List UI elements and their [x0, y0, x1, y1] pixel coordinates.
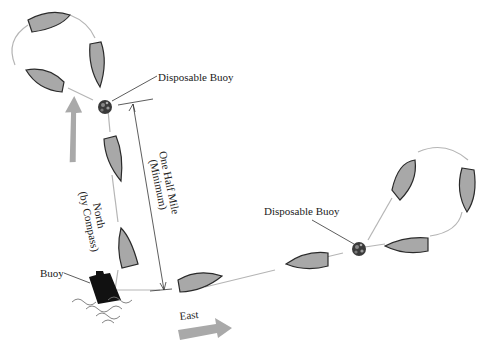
boat-east-3 — [385, 238, 428, 253]
label-north: North (by Compass) — [76, 188, 112, 253]
boat-east-2 — [286, 252, 328, 268]
boat-east-1 — [178, 273, 222, 292]
fixed-buoy — [64, 271, 132, 323]
north-loop-track — [12, 15, 160, 290]
boat-east-5 — [459, 168, 475, 212]
label-east: East — [179, 308, 199, 322]
boat-top-left-1 — [28, 12, 70, 32]
buoy-leader-right — [312, 220, 354, 244]
buoy-leader-top — [112, 76, 157, 101]
label-buoy: Buoy — [40, 267, 64, 279]
label-distance: One Half Mile (Minimum) — [145, 150, 182, 218]
boat-north-2 — [119, 228, 138, 268]
disposable-buoy-right — [312, 220, 366, 256]
label-disposable-buoy-top: Disposable Buoy — [158, 71, 234, 83]
boat-east-4 — [392, 160, 415, 200]
east-track — [205, 148, 468, 288]
boat-top-right — [90, 42, 105, 87]
disposable-buoy-top — [98, 76, 157, 114]
buoy-leader — [64, 273, 90, 283]
boat-north-1 — [104, 136, 122, 181]
boat-left-middle — [26, 69, 64, 92]
north-arrow-icon — [64, 96, 84, 163]
label-disposable-buoy-right: Disposable Buoy — [264, 205, 340, 217]
course-diagram: Disposable Buoy Disposable Buoy Buoy Eas… — [0, 0, 487, 353]
